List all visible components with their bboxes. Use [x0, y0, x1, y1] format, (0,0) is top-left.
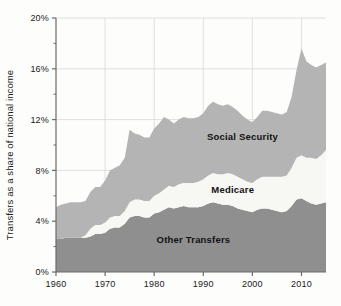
x-axis-tick-label: 2000: [242, 279, 263, 289]
x-axis-tick-label: 1980: [144, 279, 165, 289]
series-label-medicare: Medicare: [211, 184, 254, 195]
x-axis-tick-label: 1970: [95, 279, 116, 289]
y-axis-tick-label: 16%: [30, 64, 49, 74]
y-axis-tick-labels: 0%4%8%12%16%20%: [30, 13, 49, 277]
series-label-social-security: Social Security: [207, 131, 279, 142]
y-axis-tick-label: 8%: [36, 166, 49, 176]
x-axis-tick-labels: 196019701980199020002010: [46, 279, 312, 289]
series-label-other-transfers: Other Transfers: [157, 234, 231, 245]
stacked-area-chart: 0%4%8%12%16%20% 196019701980199020002010…: [0, 0, 341, 306]
x-axis-tick-label: 2010: [291, 279, 312, 289]
y-axis-tick-label: 4%: [36, 216, 49, 226]
x-axis-tick-label: 1960: [46, 279, 67, 289]
y-axis-tick-label: 0%: [36, 267, 49, 277]
y-axis-title: Transfers as a share of national income: [4, 70, 15, 240]
y-axis-tick-label: 12%: [30, 115, 49, 125]
chart-canvas: 0%4%8%12%16%20% 196019701980199020002010…: [0, 0, 341, 306]
y-axis-tick-label: 20%: [30, 13, 49, 23]
x-axis-tick-label: 1990: [193, 279, 214, 289]
